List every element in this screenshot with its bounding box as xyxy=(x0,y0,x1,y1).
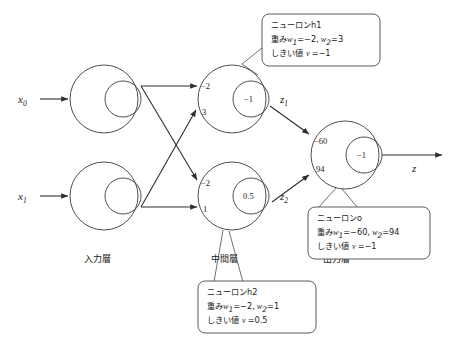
callout-h1-line1: ニューロンh1 xyxy=(271,20,321,30)
neuron-input-x1-inner xyxy=(105,178,141,214)
layer-label-hidden: 中間層 xyxy=(211,253,238,264)
neuron-input-x0-inner xyxy=(105,81,141,117)
output-label-z: z xyxy=(411,162,417,174)
callout-h1-leader xyxy=(242,48,262,75)
threshold-output: −1 xyxy=(357,150,366,160)
weight-h1-w1: −2 xyxy=(201,81,210,91)
callout-output-line3: しきい値v=−1 xyxy=(317,241,377,251)
callout-h2-line1: ニューロンh2 xyxy=(207,287,257,297)
threshold-h2: 0.5 xyxy=(243,191,254,201)
weight-h2-w1: −2 xyxy=(201,178,210,188)
neural-network-diagram: x0 x1 −2 3 −1 −2 1 0.5 xyxy=(0,0,452,351)
layer-label-input: 入力層 xyxy=(84,253,111,264)
neuron-hidden-h2-outer xyxy=(198,162,266,230)
callout-h2-line3: しきい値v=0.5 xyxy=(207,315,268,325)
neuron-hidden-h1-outer xyxy=(198,65,266,133)
edge-x0-to-h2 xyxy=(141,86,197,180)
signal-label-z1: z1 xyxy=(279,93,288,108)
weight-h1-w2: 3 xyxy=(202,107,206,117)
diagram-canvas: x0 x1 −2 3 −1 −2 1 0.5 xyxy=(0,0,452,351)
weight-h2-w2: 1 xyxy=(203,204,207,214)
callout-h1-line3: しきい値v=−1 xyxy=(271,48,331,58)
edge-x1-to-h1 xyxy=(141,110,196,207)
input-label-x1: x1 xyxy=(17,190,27,205)
callout-output-leader xyxy=(318,188,358,208)
edge-h2-to-output xyxy=(272,175,309,202)
input-label-x0: x0 xyxy=(17,93,27,108)
weight-output-w2: 94 xyxy=(316,164,325,174)
weight-output-w1: −60 xyxy=(314,136,327,146)
neuron-input-x1-outer xyxy=(70,162,138,230)
threshold-h1: −1 xyxy=(244,94,253,104)
neuron-output-outer xyxy=(311,121,379,189)
signal-label-z2: z2 xyxy=(279,190,288,205)
callout-output-line1: ニューロンo xyxy=(317,213,362,223)
neuron-input-x0-outer xyxy=(70,65,138,133)
edge-h1-to-output xyxy=(270,106,309,134)
